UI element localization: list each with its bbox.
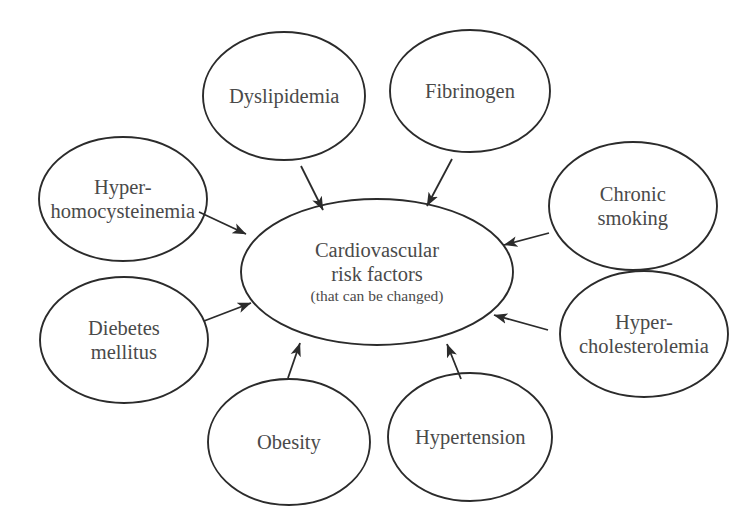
node-ellipse-hyper-cholesterolemia[interactable] [560,271,728,397]
arrow-hyper-cholesterolemia-to-center [494,315,548,330]
node-ellipse-layer [39,30,728,505]
node-ellipse-hyper-homocysteinemia[interactable] [39,137,207,261]
arrow-chronic-smoking-to-center [504,233,549,245]
arrow-fibrinogen-to-center [427,159,452,206]
node-ellipse-hypertension[interactable] [388,373,552,501]
node-ellipse-cardiovascular-risk-factors[interactable] [241,199,513,345]
cardiovascular-risk-factors-diagram: DyslipidemiaFibrinogenHyper-homocysteine… [0,0,747,527]
node-ellipse-obesity[interactable] [208,379,370,505]
arrow-dyslipidemia-to-center [301,166,323,210]
node-ellipse-diebetes-mellitus[interactable] [40,277,208,403]
arrow-diebetes-mellitus-to-center [204,303,251,321]
node-ellipse-fibrinogen[interactable] [390,30,550,152]
arrow-obesity-to-center [288,343,300,378]
arrow-hyper-homocysteinemia-to-center [199,212,246,234]
diagram-canvas [0,0,747,527]
node-ellipse-dyslipidemia[interactable] [203,32,365,160]
node-ellipse-chronic-smoking[interactable] [549,142,717,270]
arrow-layer [199,159,549,379]
